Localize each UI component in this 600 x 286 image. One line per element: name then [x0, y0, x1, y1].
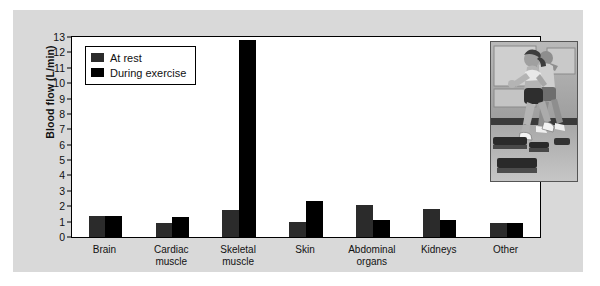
- legend-item-at-rest: At rest: [91, 50, 186, 65]
- y-tick-mark-0: [67, 237, 72, 238]
- bar-during-exercise: [373, 220, 390, 237]
- y-tick-mark-12: [67, 52, 72, 53]
- y-tick-label-8: 8: [25, 108, 72, 120]
- legend-swatch-during-exercise: [91, 68, 104, 77]
- bar-during-exercise: [507, 223, 524, 237]
- x-axis-label: Brain: [71, 244, 138, 256]
- legend-label-during-exercise: During exercise: [110, 67, 186, 79]
- y-tick-mark-6: [67, 144, 72, 145]
- y-tick-label-1: 1: [25, 216, 72, 228]
- chart-panel: Blood flow (L/min) 012345678910111213 Br…: [13, 10, 583, 272]
- y-tick-mark-7: [67, 129, 72, 130]
- x-axis-label: Other: [472, 244, 539, 256]
- y-tick-mark-4: [67, 175, 72, 176]
- step-aerobics-photo: [490, 41, 578, 182]
- legend-item-during-exercise: During exercise: [91, 65, 186, 80]
- y-tick-label-12: 12: [25, 46, 72, 58]
- photo-illustration: [491, 42, 577, 181]
- y-tick-mark-2: [67, 206, 72, 207]
- y-tick-mark-10: [67, 83, 72, 84]
- legend-label-at-rest: At rest: [110, 52, 142, 64]
- bar-at-rest: [289, 222, 306, 237]
- bar-at-rest: [423, 209, 440, 237]
- y-tick-label-11: 11: [25, 62, 72, 74]
- x-axis-label: Skeletalmuscle: [205, 244, 272, 267]
- x-axis-label: Cardiacmuscle: [138, 244, 205, 267]
- figure-root: Blood flow (L/min) 012345678910111213 Br…: [0, 0, 600, 286]
- bar-at-rest: [490, 223, 507, 237]
- bar-group: [222, 37, 255, 237]
- bar-at-rest: [89, 216, 106, 237]
- bar-at-rest: [156, 223, 173, 237]
- bar-during-exercise: [239, 40, 256, 237]
- chart-legend: At rest During exercise: [85, 46, 196, 85]
- y-tick-label-2: 2: [25, 200, 72, 212]
- y-tick-label-6: 6: [25, 139, 72, 151]
- legend-swatch-at-rest: [91, 53, 104, 62]
- y-tick-mark-8: [67, 113, 72, 114]
- y-tick-label-0: 0: [25, 231, 72, 243]
- x-axis-label: Abdominalorgans: [338, 244, 405, 267]
- bar-during-exercise: [306, 201, 323, 237]
- y-tick-mark-3: [67, 190, 72, 191]
- y-tick-label-9: 9: [25, 93, 72, 105]
- bar-group: [423, 37, 456, 237]
- bar-at-rest: [356, 205, 373, 237]
- bar-during-exercise: [105, 216, 122, 237]
- bar-at-rest: [222, 210, 239, 237]
- y-tick-label-4: 4: [25, 169, 72, 181]
- bar-during-exercise: [440, 220, 457, 237]
- bar-group: [289, 37, 322, 237]
- y-tick-mark-13: [67, 37, 72, 38]
- y-tick-mark-1: [67, 221, 72, 222]
- y-tick-label-13: 13: [25, 31, 72, 43]
- y-tick-label-5: 5: [25, 154, 72, 166]
- y-tick-mark-5: [67, 160, 72, 161]
- y-tick-label-10: 10: [25, 77, 72, 89]
- y-tick-label-7: 7: [25, 123, 72, 135]
- x-axis-label: Skin: [272, 244, 339, 256]
- x-axis-label: Kidneys: [405, 244, 472, 256]
- y-tick-label-3: 3: [25, 185, 72, 197]
- y-tick-mark-11: [67, 67, 72, 68]
- y-tick-mark-9: [67, 98, 72, 99]
- bar-group: [356, 37, 389, 237]
- bar-during-exercise: [172, 217, 189, 237]
